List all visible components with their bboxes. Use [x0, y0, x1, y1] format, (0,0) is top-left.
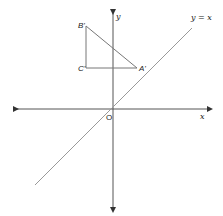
x-axis-label: x — [200, 112, 205, 121]
y-axis-label: y — [115, 12, 121, 21]
vertex-c-prime-label: C' — [78, 64, 86, 73]
coordinate-diagram: x y O y = x B' C' A' — [0, 0, 223, 216]
vertex-b-prime-label: B' — [78, 21, 85, 30]
origin-label: O — [106, 113, 112, 122]
triangle-abc-prime — [86, 26, 137, 68]
line-label: y = x — [190, 13, 212, 22]
vertex-a-prime-label: A' — [138, 64, 146, 73]
